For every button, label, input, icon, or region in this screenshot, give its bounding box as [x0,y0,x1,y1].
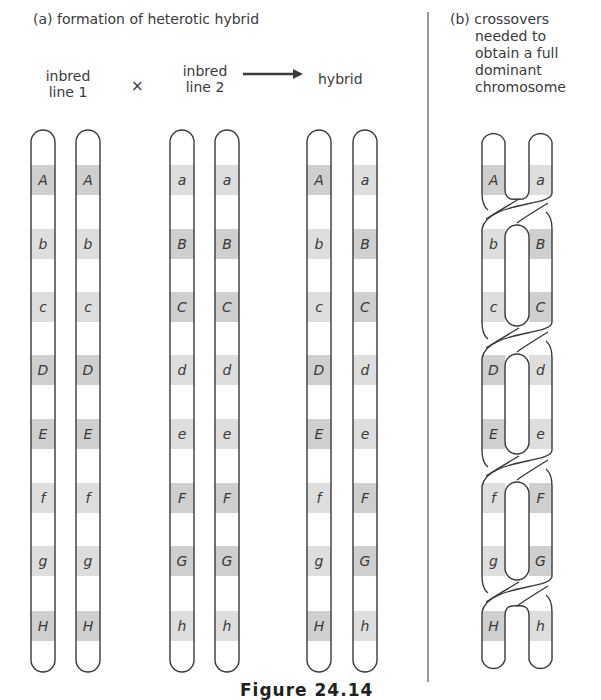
panel-a-chromosomes: AbcDEfgHAbcDEfgHaBCdeFGhaBCdeFGhAbcDEfgH… [31,130,377,672]
allele-label: D [488,362,499,378]
chromatid-outline [486,199,519,219]
allele-label: g [39,553,48,569]
allele-label: c [490,299,498,315]
allele-label: G [177,553,188,569]
chromatid-outline [517,332,548,352]
chromosome-outline [215,130,239,672]
chromatid-outline [482,193,488,210]
allele-label: c [39,299,47,315]
allele-label: E [315,426,324,442]
allele-label: B [177,236,187,252]
allele-label: B [222,236,232,252]
allele-label: G [222,553,233,569]
allele-label: H [488,618,499,634]
chromatid-outline [505,225,529,326]
allele-label: d [361,362,370,378]
allele-label: g [315,553,324,569]
allele-label: C [177,299,187,315]
allele-label: F [223,490,232,506]
chromosome: AbcDEfgH [31,130,55,672]
allele-label: h [536,618,545,634]
allele-label: b [315,236,324,252]
allele-label: a [178,172,187,188]
allele-label: C [360,299,370,315]
chromatid-outline [517,203,548,223]
allele-label: B [360,236,370,252]
allele-label: H [83,618,94,634]
chromatid-outline [482,322,552,358]
allele-label: C [536,299,546,315]
chromosome-outline [307,130,331,672]
chromatid-outline [482,450,488,467]
chromosome-outline [170,130,194,672]
chromatid-outline [486,456,519,476]
allele-label: D [38,362,49,378]
allele-label: A [313,172,324,188]
allele-label: h [178,618,187,634]
allele-label: G [535,553,546,569]
allele-label: c [315,299,323,315]
allele-label: E [489,426,498,442]
chromatid-outline [486,328,519,348]
allele-label: h [223,618,232,634]
chromatid-outline [517,460,548,480]
allele-label: e [223,426,232,442]
right-arrow-icon [243,69,303,79]
chromosome: aBCdeFGh [170,130,194,672]
allele-label: a [361,172,370,188]
allele-label: F [536,490,545,506]
allele-label: e [178,426,187,442]
chromatid-outline [482,576,552,612]
allele-label: F [178,490,187,506]
allele-label: d [536,362,545,378]
allele-label: c [84,299,92,315]
chromatid-outline [505,482,529,580]
panel-b-braid: AbcDEfgHaBCdeFGh [482,133,552,668]
allele-label: B [536,236,546,252]
allele-label: g [489,553,498,569]
chromatid-outline [505,354,529,454]
chromatid-outline [482,450,552,486]
chromatid-outline [482,576,488,593]
allele-label: D [83,362,94,378]
chromosome: AbcDEfgH [76,130,100,672]
allele-label: A [37,172,48,188]
chromatid-outline [482,322,488,339]
chromatid-outline [546,595,552,612]
allele-label: H [38,618,49,634]
chromosome: aBCdeFGh [353,130,377,672]
allele-label: b [39,236,48,252]
allele-label: b [84,236,93,252]
allele-label: a [536,172,545,188]
allele-label: d [178,362,187,378]
chromatid-outline [546,212,552,229]
chromosome-outline [76,130,100,672]
chromosome: aBCdeFGh [215,130,239,672]
chromosome-outline [31,130,55,672]
allele-label: F [361,490,370,506]
allele-label: a [223,172,232,188]
allele-label: H [314,618,325,634]
allele-label: C [222,299,232,315]
chromatid-outline [486,582,519,602]
allele-label: E [84,426,93,442]
allele-label: b [489,236,498,252]
allele-label: h [361,618,370,634]
allele-label: e [536,426,545,442]
chromosome: AbcDEfgH [307,130,331,672]
allele-label: D [314,362,325,378]
allele-label: g [84,553,93,569]
chromatid-outline [517,586,548,606]
allele-label: A [82,172,93,188]
figure-caption: Figure 24.14 [240,680,373,700]
allele-label: e [361,426,370,442]
allele-label: G [360,553,371,569]
chromosome-outline [353,130,377,672]
allele-label: d [223,362,232,378]
allele-label: A [488,172,499,188]
allele-label: E [39,426,48,442]
chromatid-outline [482,193,552,229]
